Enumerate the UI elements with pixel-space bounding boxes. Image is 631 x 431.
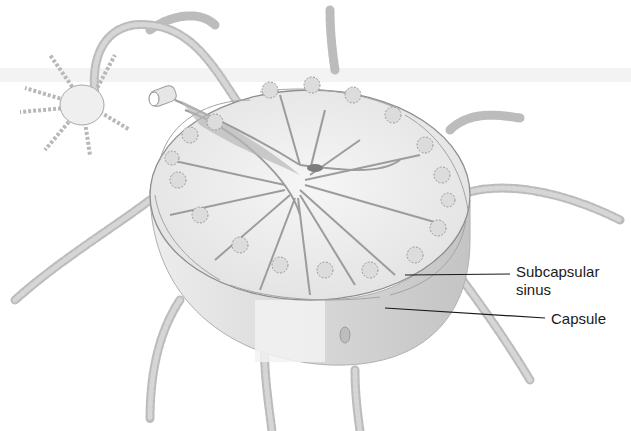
label-subcapsular-sinus: Subcapsular (516, 263, 599, 280)
label-subcapsular-sinus-line2: sinus (516, 281, 551, 298)
label-capsule: Capsule (551, 310, 606, 327)
lymph-node-illustration (0, 0, 631, 431)
capsule-cutaway (255, 300, 325, 362)
capsule-vessel (340, 327, 350, 343)
blood-vessel-stub (148, 84, 178, 108)
lymph-node-diagram: Subcapsular sinus Capsule (0, 0, 631, 431)
hilum-vessel (307, 164, 323, 172)
